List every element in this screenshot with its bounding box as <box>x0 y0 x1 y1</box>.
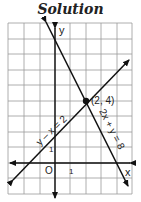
y-tick-label: 1 <box>49 145 54 154</box>
intersection-label: (2, 4) <box>91 95 114 106</box>
line-label-2x-plus-y: 2x + y = 8 <box>97 107 127 152</box>
x-axis-label: x <box>125 166 131 178</box>
x-tick-label: 1 <box>69 167 74 176</box>
y-axis-label: y <box>59 24 65 36</box>
line-label-y-minus-x: y – x = 2 <box>34 113 69 148</box>
origin-label: O <box>45 165 53 176</box>
graph: y x O 1 1 (2, 4) y – x = 2 2x + y = 8 <box>0 0 141 202</box>
intersection-point <box>83 98 89 104</box>
